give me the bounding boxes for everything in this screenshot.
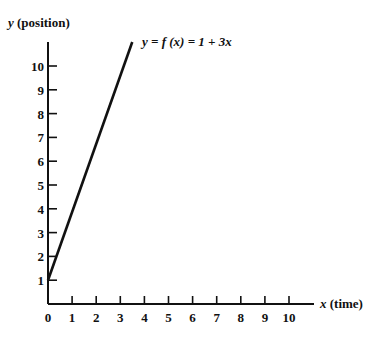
y-tick-label: 8 [38,107,45,122]
y-ticks: 12345678910 [31,59,57,288]
equation-label: y = f (x) = 1 + 3x [140,34,232,49]
x-tick-label: 4 [141,310,148,325]
x-tick-label: 0 [45,310,52,325]
y-tick-label: 1 [38,273,45,288]
x-ticks: 012345678910 [45,296,296,325]
y-tick-label: 6 [38,154,45,169]
x-tick-label: 6 [189,310,196,325]
y-tick-label: 7 [38,130,45,145]
x-tick-label: 9 [262,310,269,325]
y-tick-label: 5 [38,178,45,193]
y-tick-label: 2 [38,249,45,264]
y-tick-label: 3 [38,226,45,241]
x-tick-label: 10 [283,310,296,325]
y-tick-label: 10 [31,59,44,74]
x-tick-label: 2 [93,310,100,325]
x-tick-label: 1 [69,310,76,325]
x-tick-label: 8 [238,310,245,325]
data-line [48,42,132,280]
x-axis-label: x (time) [319,296,363,311]
y-tick-label: 9 [38,83,45,98]
x-tick-label: 3 [117,310,124,325]
x-tick-label: 5 [165,310,172,325]
y-axis-label: y (position) [6,15,70,30]
chart: 012345678910 12345678910 y (position) x … [0,0,382,339]
x-tick-label: 7 [213,310,220,325]
y-tick-label: 4 [38,202,45,217]
